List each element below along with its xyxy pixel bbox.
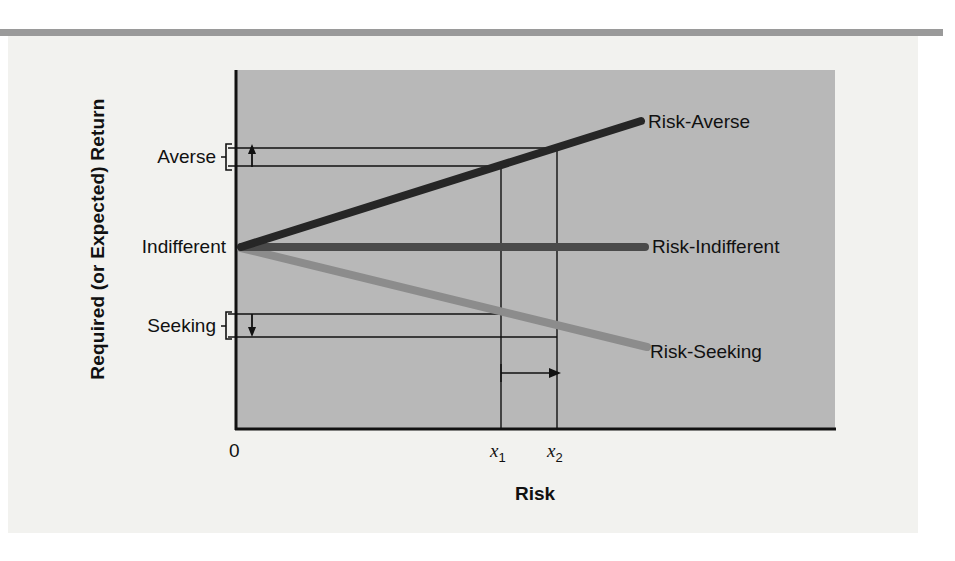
series-label-risk-seeking: Risk-Seeking [650, 341, 762, 363]
x-tick-label-x2: x2 [547, 440, 563, 465]
seeking-bracket [221, 312, 232, 339]
x-tick-label-origin: 0 [229, 440, 240, 462]
figure-page: Required (or Expected) Return Risk Avers… [0, 0, 955, 561]
x-axis-title: Risk [455, 483, 615, 505]
y-category-label-averse: Averse [60, 146, 216, 168]
x-tick-label-x1: x1 [490, 440, 506, 465]
y-category-label-indifferent: Indifferent [60, 236, 226, 258]
series-label-risk-indifferent: Risk-Indifferent [652, 236, 779, 258]
x-tick-x1-sub: 1 [498, 450, 505, 465]
y-category-label-seeking: Seeking [60, 315, 216, 337]
x-tick-x2-sub: 2 [555, 450, 562, 465]
series-label-risk-averse: Risk-Averse [648, 111, 750, 133]
risk-return-chart [0, 0, 955, 561]
